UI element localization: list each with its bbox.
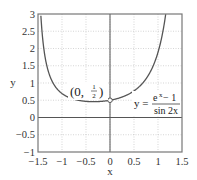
svg-text:1: 1	[155, 156, 160, 167]
svg-text:0: 0	[30, 112, 35, 123]
svg-text:e: e	[153, 92, 158, 103]
svg-text:−0.5: −0.5	[16, 129, 35, 140]
y-tick-labels: −1−0.500.511.522.53	[16, 9, 35, 158]
svg-text:2: 2	[92, 92, 96, 100]
svg-text:2.5: 2.5	[22, 26, 35, 37]
svg-text:−1: −1	[24, 147, 35, 158]
svg-text:0.5: 0.5	[22, 95, 35, 106]
svg-text:y =: y =	[134, 97, 148, 109]
svg-text:1: 1	[30, 78, 35, 89]
svg-text:(0,: (0,	[70, 84, 84, 99]
removable-discontinuity-point	[108, 98, 113, 103]
function-plot: −1.5−1−0.500.511.5 −1−0.500.511.522.53 x…	[0, 0, 197, 180]
svg-text:−0.5: −0.5	[76, 156, 95, 167]
svg-text:3: 3	[30, 9, 35, 20]
svg-text:2: 2	[30, 43, 35, 54]
svg-text:1.5: 1.5	[175, 156, 188, 167]
svg-text:1: 1	[92, 83, 96, 91]
y-axis-label: y	[10, 76, 16, 88]
svg-text:−1.5: −1.5	[28, 156, 47, 167]
zero-axes	[38, 14, 182, 152]
point-annotation: (0, 1 2 )	[68, 82, 108, 100]
equation-annotation: y = e x − 1 sin 2x	[132, 91, 181, 116]
svg-text:sin 2x: sin 2x	[154, 105, 178, 116]
svg-text:): )	[99, 84, 103, 99]
x-axis-label: x	[107, 165, 113, 177]
svg-text:−1: −1	[56, 156, 67, 167]
svg-text:0.5: 0.5	[127, 156, 140, 167]
svg-text:1.5: 1.5	[22, 60, 35, 71]
svg-text:− 1: − 1	[163, 92, 176, 103]
